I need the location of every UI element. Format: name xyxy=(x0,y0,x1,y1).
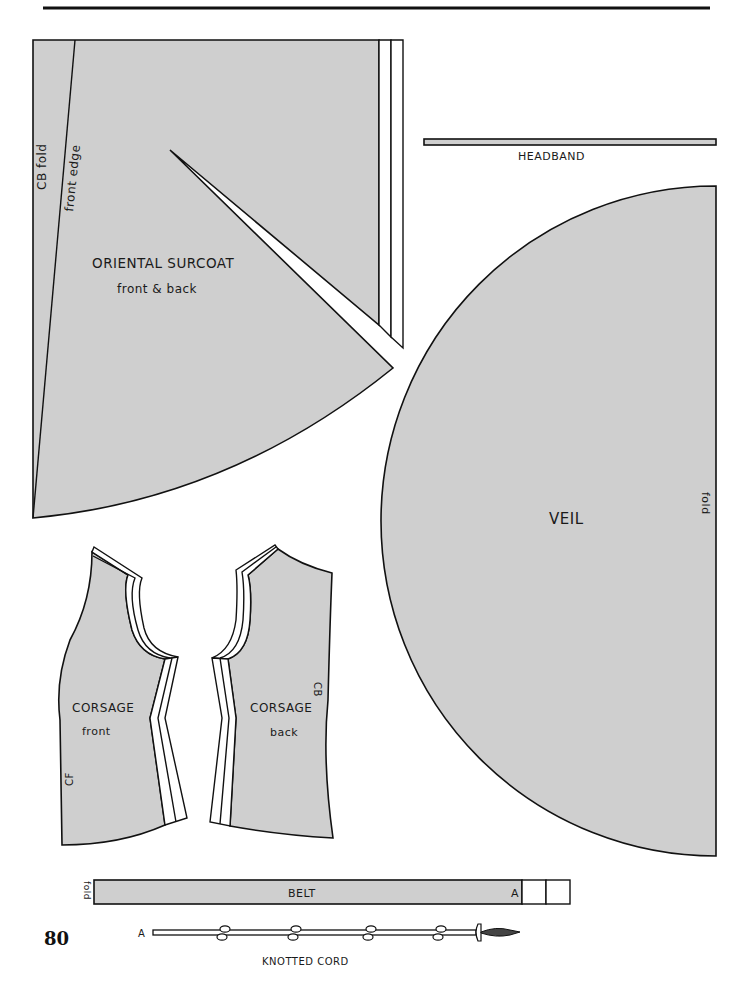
corsage-back-subtitle: back xyxy=(270,726,298,739)
belt-marker-a: A xyxy=(511,887,519,900)
veil-piece: VEIL fold xyxy=(381,186,716,856)
belt-fold-label: fold xyxy=(82,881,92,900)
surcoat-title: ORIENTAL SURCOAT xyxy=(92,255,235,271)
veil-fold-label: fold xyxy=(699,492,712,515)
cb-label: CB xyxy=(312,682,323,697)
corsage-front-title: CORSAGE xyxy=(72,701,134,715)
corsage-front-piece: CORSAGE front CF xyxy=(59,547,187,845)
cord-marker-a: A xyxy=(138,928,145,939)
surcoat-piece: CB fold front edge ORIENTAL SURCOAT fron… xyxy=(33,40,403,518)
knotted-cord-title: KNOTTED CORD xyxy=(262,956,349,967)
corsage-front-subtitle: front xyxy=(82,725,111,738)
page-number: 80 xyxy=(44,928,69,949)
cb-fold-label: CB fold xyxy=(35,144,49,190)
headband-piece: HEADBAND xyxy=(424,139,716,163)
corsage-back-piece: CORSAGE back CB xyxy=(210,545,333,838)
tassel-icon xyxy=(476,924,520,941)
veil-title: VEIL xyxy=(549,510,584,528)
belt-title: BELT xyxy=(288,887,316,900)
belt-piece: BELT A fold xyxy=(82,880,570,904)
cf-label: CF xyxy=(64,772,75,786)
knotted-cord: A KNOTTED CORD xyxy=(138,924,520,967)
corsage-back-title: CORSAGE xyxy=(250,701,312,715)
pattern-page: CB fold front edge ORIENTAL SURCOAT fron… xyxy=(0,0,755,986)
headband-title: HEADBAND xyxy=(518,150,585,163)
surcoat-subtitle: front & back xyxy=(117,282,197,296)
